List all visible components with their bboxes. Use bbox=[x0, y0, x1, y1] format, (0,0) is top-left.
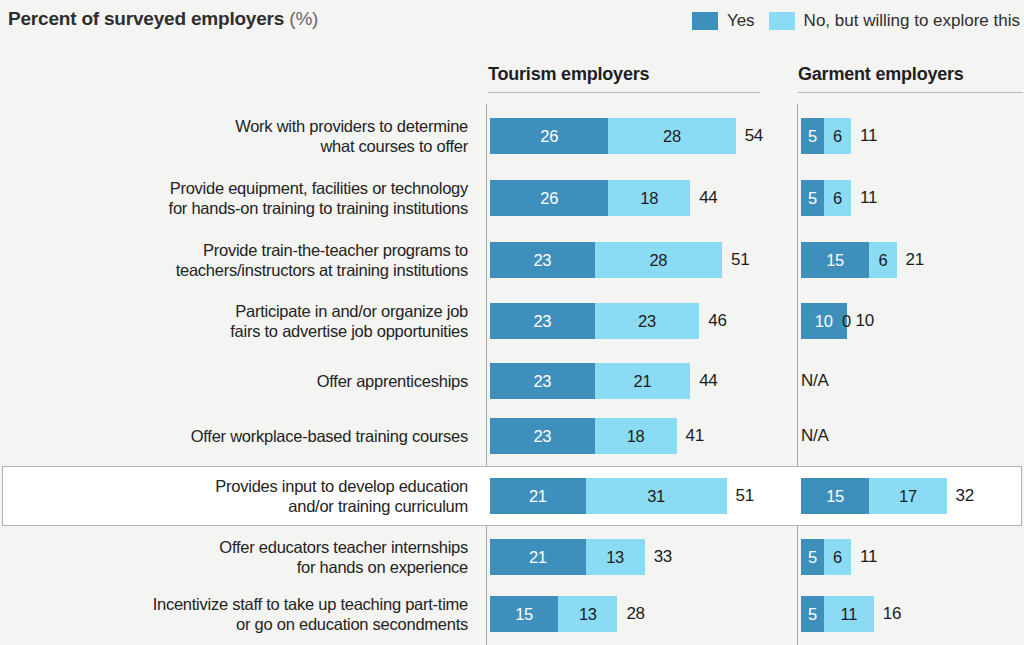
bar-group-tourism: 213151 bbox=[490, 478, 754, 514]
bar-segment-yes[interactable]: 15 bbox=[490, 596, 558, 632]
bar-segment-yes[interactable]: 5 bbox=[801, 539, 824, 575]
bar-group-tourism: 211333 bbox=[490, 539, 672, 575]
bar-group-garment: 51116 bbox=[801, 596, 901, 632]
bar-group-tourism: 232851 bbox=[490, 242, 749, 278]
bar-total-label: 51 bbox=[727, 478, 754, 514]
chart-row: Participate in and/or organize job fairs… bbox=[0, 303, 1024, 339]
bar-segment-yes[interactable]: 5 bbox=[801, 180, 824, 216]
legend-swatch-icon bbox=[692, 12, 718, 30]
bar-group-garment: 10010 bbox=[801, 303, 874, 339]
bar-segment-no[interactable]: 6 bbox=[824, 118, 851, 154]
bar-group-garment: 5611 bbox=[801, 180, 877, 216]
bar-total-label: 28 bbox=[617, 596, 644, 632]
bar-segment-no[interactable]: 6 bbox=[824, 539, 851, 575]
bar-segment-yes[interactable]: 23 bbox=[490, 303, 595, 339]
bar-group-tourism: 151328 bbox=[490, 596, 645, 632]
chart-row: Provide equipment, facilities or technol… bbox=[0, 180, 1024, 216]
bar-total-label: 21 bbox=[897, 242, 924, 278]
bar-total-label: 11 bbox=[851, 180, 877, 216]
page-title-text: Percent of surveyed employers bbox=[8, 8, 284, 29]
bar-segment-no[interactable]: 13 bbox=[586, 539, 645, 575]
bar-total-label: 46 bbox=[699, 303, 726, 339]
row-label: Provide equipment, facilities or technol… bbox=[169, 178, 468, 218]
legend-label: No, but willing to explore this bbox=[804, 11, 1020, 31]
column-header-garment: Garment employers bbox=[798, 64, 964, 85]
bar-segment-no[interactable]: 28 bbox=[608, 118, 735, 154]
bar-segment-yes[interactable]: 23 bbox=[490, 363, 595, 399]
bar-total-label: 51 bbox=[722, 242, 749, 278]
bar-segment-no[interactable]: 18 bbox=[595, 418, 677, 454]
legend-item[interactable]: Yes bbox=[692, 11, 755, 31]
bar-total-label: 41 bbox=[677, 418, 704, 454]
chart-row: Offer workplace-based training courses23… bbox=[0, 418, 1024, 454]
bar-segment-yes[interactable]: 23 bbox=[490, 418, 595, 454]
bar-segment-no[interactable]: 11 bbox=[824, 596, 874, 632]
na-label: N/A bbox=[801, 418, 828, 454]
row-label: Work with providers to determine what co… bbox=[235, 116, 468, 156]
bar-segment-no[interactable]: 23 bbox=[595, 303, 700, 339]
page-title: Percent of surveyed employers (%) bbox=[8, 8, 318, 30]
column-header-tourism: Tourism employers bbox=[488, 64, 649, 85]
page-title-unit: (%) bbox=[289, 8, 318, 29]
bar-group-tourism: 261844 bbox=[490, 180, 718, 216]
chart-row: Incentivize staff to take up teaching pa… bbox=[0, 596, 1024, 632]
bar-segment-yes[interactable]: 5 bbox=[801, 596, 824, 632]
bar-segment-yes[interactable]: 26 bbox=[490, 118, 608, 154]
bar-group-garment: 5611 bbox=[801, 539, 877, 575]
bar-group-tourism: 262854 bbox=[490, 118, 763, 154]
row-label: Offer educators teacher internships for … bbox=[219, 537, 468, 577]
bar-segment-yes[interactable]: 10 bbox=[801, 303, 847, 339]
na-label: N/A bbox=[801, 363, 828, 399]
chart-row: Provides input to develop education and/… bbox=[0, 478, 1024, 514]
bar-segment-yes[interactable]: 26 bbox=[490, 180, 608, 216]
chart-row: Offer educators teacher internships for … bbox=[0, 539, 1024, 575]
row-label: Provide train-the-teacher programs to te… bbox=[176, 240, 468, 280]
bar-total-label: 54 bbox=[736, 118, 763, 154]
bar-total-label: 16 bbox=[874, 596, 901, 632]
bar-group-garment: N/A bbox=[801, 363, 828, 399]
bar-segment-yes[interactable]: 15 bbox=[801, 242, 869, 278]
bar-segment-yes[interactable]: 15 bbox=[801, 478, 869, 514]
bar-group-tourism: 231841 bbox=[490, 418, 704, 454]
chart-root: Percent of surveyed employers (%) YesNo,… bbox=[0, 0, 1024, 645]
row-label: Offer apprenticeships bbox=[317, 371, 468, 391]
bar-segment-no[interactable]: 13 bbox=[558, 596, 617, 632]
bar-segment-yes[interactable]: 21 bbox=[490, 478, 586, 514]
bar-segment-no[interactable]: 31 bbox=[586, 478, 727, 514]
bar-segment-no[interactable]: 17 bbox=[869, 478, 946, 514]
bar-group-tourism: 232346 bbox=[490, 303, 727, 339]
column-header-rule-garment bbox=[798, 92, 1023, 93]
bar-total-label: 44 bbox=[690, 180, 717, 216]
bar-segment-yes[interactable]: 23 bbox=[490, 242, 595, 278]
legend-label: Yes bbox=[727, 11, 755, 31]
bar-segment-no[interactable]: 6 bbox=[824, 180, 851, 216]
bar-segment-no[interactable]: 28 bbox=[595, 242, 722, 278]
chart-row: Provide train-the-teacher programs to te… bbox=[0, 242, 1024, 278]
bar-segment-yes[interactable]: 21 bbox=[490, 539, 586, 575]
row-label: Incentivize staff to take up teaching pa… bbox=[153, 594, 468, 634]
column-header-rule-tourism bbox=[488, 92, 760, 93]
legend-swatch-icon bbox=[769, 12, 795, 30]
bar-group-garment: N/A bbox=[801, 418, 828, 454]
bar-segment-no[interactable]: 18 bbox=[608, 180, 690, 216]
bar-total-label: 44 bbox=[690, 363, 717, 399]
bar-group-garment: 5611 bbox=[801, 118, 877, 154]
bar-segment-no[interactable]: 21 bbox=[595, 363, 691, 399]
bar-group-garment: 151732 bbox=[801, 478, 974, 514]
legend-item[interactable]: No, but willing to explore this bbox=[769, 11, 1020, 31]
bar-segment-no[interactable]: 6 bbox=[869, 242, 896, 278]
row-label: Offer workplace-based training courses bbox=[191, 426, 468, 446]
row-label: Participate in and/or organize job fairs… bbox=[230, 301, 468, 341]
chart-row: Offer apprenticeships232144N/A bbox=[0, 363, 1024, 399]
chart-legend: YesNo, but willing to explore this bbox=[692, 11, 1020, 31]
bar-group-tourism: 232144 bbox=[490, 363, 718, 399]
bar-total-label: 11 bbox=[851, 118, 877, 154]
bar-total-label: 33 bbox=[645, 539, 672, 575]
chart-row: Work with providers to determine what co… bbox=[0, 118, 1024, 154]
row-label: Provides input to develop education and/… bbox=[215, 476, 468, 516]
bar-total-label: 32 bbox=[947, 478, 974, 514]
bar-total-label: 11 bbox=[851, 539, 877, 575]
bar-group-garment: 15621 bbox=[801, 242, 924, 278]
bar-segment-yes[interactable]: 5 bbox=[801, 118, 824, 154]
